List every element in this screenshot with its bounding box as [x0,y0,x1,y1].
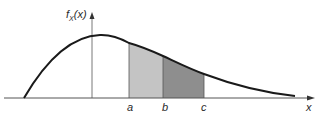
point-label-b: b [162,102,168,113]
y-axis-arrow-icon [90,12,95,19]
region-a-b [129,43,163,98]
region-b-c [163,56,204,98]
y-axis-label: fX(x) [66,9,87,22]
point-label-a: a [127,102,133,113]
x-axis-label: x [306,102,312,113]
y-label-arg: (x) [74,8,87,20]
x-axis-arrow-icon [307,96,315,101]
point-label-c: c [201,102,207,113]
